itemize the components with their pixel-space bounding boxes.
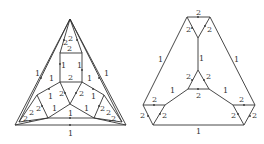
edge-label: 2: [36, 104, 41, 113]
edge-label: 1: [77, 61, 82, 70]
edge-label: 2: [152, 95, 157, 104]
left-graph: 2 2 2 1 1 2 1 1 1 1 1 2 2 1 2 2 2 1 1 1 …: [15, 19, 126, 138]
edge-label: 1: [170, 86, 175, 95]
edge-label: 1: [48, 92, 53, 101]
edge-label: 1: [234, 55, 239, 64]
edge-label: 1: [223, 86, 228, 95]
edge-label: 1: [49, 74, 54, 83]
edge-label: 2: [239, 95, 244, 104]
edge-label: 1: [104, 69, 109, 78]
figure-canvas: 2 2 2 1 1 2 1 1 1 1 1 2 2 1 2 2 2 1 1 1 …: [0, 0, 264, 144]
edge-label: 2: [111, 114, 116, 123]
edge-label: 2: [186, 25, 191, 34]
edge-label: 2: [140, 111, 145, 120]
edge-label: 1: [158, 55, 163, 64]
center-left-edge: [165, 89, 188, 105]
rightquad-center: [70, 104, 94, 118]
inner-left-side: [19, 19, 70, 122]
edge-label: 2: [196, 91, 201, 100]
edge-label: 1: [91, 92, 96, 101]
edge-label: 1: [87, 74, 92, 83]
edge-label: 2: [59, 89, 64, 98]
edge-label: 1: [196, 127, 201, 136]
edge-label: 1: [68, 129, 73, 138]
edge-label: 2: [29, 108, 34, 117]
edge-label: 2: [67, 44, 72, 53]
edge-label: 2: [79, 89, 84, 98]
edge-label: 2: [68, 73, 73, 82]
right-long-edge: [210, 17, 255, 105]
edge-label: 1: [199, 54, 204, 63]
edge-label: 2: [231, 111, 236, 120]
edge-label: 1: [68, 109, 73, 118]
edge-label: 2: [206, 72, 211, 81]
edge-label: 1: [52, 104, 57, 113]
edge-label: 1: [61, 61, 66, 70]
edge-label: 2: [252, 111, 257, 120]
inner-right-side: [70, 19, 122, 122]
edge-label: 2: [68, 34, 73, 43]
edge-label: 2: [207, 25, 212, 34]
edge-label: 1: [35, 69, 40, 78]
edge-label: 2: [23, 114, 28, 123]
edge-label: 1: [84, 104, 89, 113]
left-long-edge: [143, 17, 187, 105]
edge-label: 2: [162, 111, 167, 120]
center-right-edge: [209, 89, 233, 105]
right-graph: 2 2 2 1 1 1 2 2 1 2 1 2 2 2 2 2 2 1: [140, 8, 257, 136]
edge-label: 2: [186, 72, 191, 81]
edge-label: 2: [100, 104, 105, 113]
edge-label: 2: [196, 8, 201, 17]
